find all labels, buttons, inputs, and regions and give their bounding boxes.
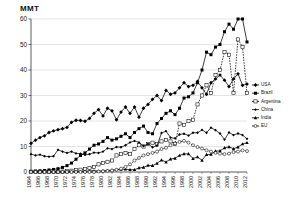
data-point [201, 147, 204, 150]
x-tick-label: 1986 [125, 176, 131, 188]
data-point [115, 146, 118, 149]
data-point [169, 144, 172, 147]
data-point [223, 153, 226, 156]
series-usa [29, 72, 249, 145]
data-point [61, 150, 64, 153]
data-point [246, 150, 249, 153]
data-point [219, 43, 222, 46]
data-point [241, 83, 245, 87]
y-tick-label: 30 [20, 92, 28, 99]
data-point [173, 156, 176, 159]
legend-item-eu[interactable]: EU [252, 123, 267, 128]
data-point [88, 166, 91, 169]
legend-item-china[interactable]: China [252, 107, 273, 112]
data-point [66, 171, 69, 174]
data-point [133, 131, 136, 134]
data-point [66, 151, 69, 154]
data-point [79, 119, 83, 123]
data-point [174, 142, 177, 145]
data-point [106, 106, 110, 110]
data-point [205, 51, 208, 54]
data-point [245, 91, 248, 94]
data-point [182, 123, 185, 126]
legend-label: Brazil [261, 90, 273, 95]
data-point [106, 169, 109, 172]
data-point [151, 151, 154, 154]
y-tick-label: 50 [20, 41, 28, 48]
data-point [245, 141, 248, 144]
data-point [48, 155, 51, 158]
legend-item-brazil[interactable]: Brazil [252, 90, 273, 95]
y-tick-label: 60 [20, 15, 28, 22]
data-point [39, 153, 42, 156]
data-point [48, 171, 51, 174]
data-point [115, 154, 118, 157]
series-line [31, 19, 247, 171]
data-point [115, 137, 118, 140]
legend-item-argentina[interactable]: Argentina [252, 99, 281, 104]
data-point [70, 150, 73, 153]
legend-item-usa[interactable]: USA [252, 82, 271, 87]
legend-label: EU [261, 123, 267, 128]
data-point [187, 141, 190, 144]
data-point [106, 160, 109, 163]
y-tick-label: 20 [20, 117, 28, 124]
data-point [93, 151, 96, 154]
data-point [138, 127, 141, 130]
data-point [169, 109, 172, 112]
data-point [196, 146, 199, 149]
data-point [156, 122, 159, 125]
data-point [187, 119, 190, 122]
data-point [223, 30, 226, 33]
data-point [75, 158, 78, 161]
data-point [43, 155, 46, 158]
data-point [160, 132, 163, 135]
data-point [133, 139, 136, 142]
data-point [66, 164, 69, 167]
y-tick-label: 10 [20, 143, 28, 150]
x-tick-label: 2000 [188, 176, 194, 188]
data-point [214, 74, 217, 77]
data-point [200, 94, 203, 97]
data-point [110, 159, 113, 162]
x-tick-label: 1996 [170, 176, 176, 188]
data-point [101, 161, 104, 164]
data-point [156, 150, 159, 153]
x-tick-label: 1972 [62, 176, 68, 188]
chart-container: MMT 010203040506019641966196819701972197… [0, 0, 299, 212]
legend-item-india[interactable]: India [252, 115, 271, 120]
data-point [137, 144, 140, 147]
data-point [192, 91, 195, 94]
data-point [110, 109, 114, 113]
data-point [43, 171, 46, 174]
data-point [147, 153, 150, 156]
data-point [93, 144, 96, 147]
data-point [83, 119, 87, 123]
data-point [183, 132, 186, 135]
data-point [196, 155, 199, 158]
data-point [142, 154, 145, 157]
data-point [236, 38, 239, 41]
data-point [228, 152, 231, 155]
x-tick-label: 1998 [179, 176, 185, 188]
x-tick-label: 1994 [161, 176, 167, 188]
data-point [205, 149, 208, 152]
data-point [164, 139, 167, 142]
data-point [74, 118, 78, 122]
data-point [210, 150, 213, 153]
data-point [232, 28, 235, 31]
data-point [102, 170, 105, 173]
data-point [111, 139, 114, 142]
data-point [128, 153, 131, 156]
legend-label: China [261, 107, 273, 112]
data-point [137, 115, 141, 119]
data-point [178, 140, 181, 143]
data-point [119, 153, 122, 156]
legend-label: Argentina [261, 99, 281, 104]
x-tick-label: 2010 [233, 176, 239, 188]
x-tick-label: 1992 [152, 176, 158, 188]
data-point [165, 112, 168, 115]
data-point [124, 165, 127, 168]
y-tick-label: 40 [20, 66, 28, 73]
data-point [254, 100, 257, 103]
